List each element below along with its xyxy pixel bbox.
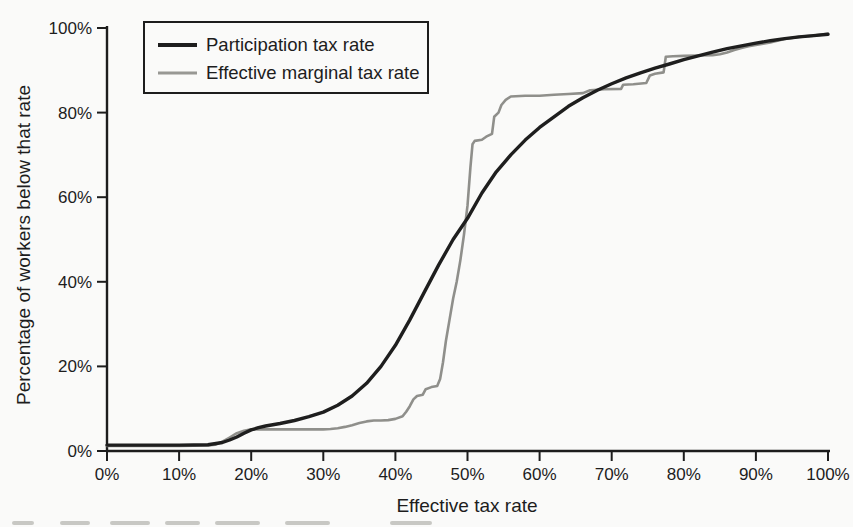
legend-participation-label: Participation tax rate bbox=[206, 34, 375, 55]
y-tick-label: 20% bbox=[58, 357, 92, 376]
x-tick-label: 0% bbox=[95, 465, 120, 484]
caption-remnant-mark bbox=[110, 521, 150, 525]
x-tick-label: 30% bbox=[306, 465, 340, 484]
participation-tax-rate-curve bbox=[107, 34, 828, 445]
legend: Participation tax rate Effective margina… bbox=[144, 22, 428, 93]
effective-marginal-tax-rate-curve bbox=[107, 34, 828, 446]
y-axis-title: Percentage of workers below that rate bbox=[13, 85, 34, 405]
caption-remnant-mark bbox=[12, 521, 34, 525]
caption-remnant-mark bbox=[60, 521, 90, 525]
y-tick-label: 60% bbox=[58, 188, 92, 207]
legend-marginal-label: Effective marginal tax rate bbox=[206, 62, 420, 83]
y-tick-label: 0% bbox=[67, 442, 92, 461]
x-tick-label: 80% bbox=[667, 465, 701, 484]
x-tick-label: 20% bbox=[234, 465, 268, 484]
x-tick-label: 40% bbox=[378, 465, 412, 484]
x-tick-label: 100% bbox=[806, 465, 849, 484]
caption-remnant-mark bbox=[390, 521, 432, 525]
x-axis-ticks: 0%10%20%30%40%50%60%70%80%90%100% bbox=[95, 451, 850, 484]
scanned-chart-figure: 0%20%40%60%80%100% 0%10%20%30%40%50%60%7… bbox=[0, 0, 853, 527]
x-tick-label: 10% bbox=[162, 465, 196, 484]
y-axis-ticks: 0%20%40%60%80%100% bbox=[49, 19, 107, 461]
x-tick-label: 50% bbox=[450, 465, 484, 484]
x-tick-label: 90% bbox=[739, 465, 773, 484]
x-tick-label: 60% bbox=[523, 465, 557, 484]
caption-remnant-mark bbox=[165, 521, 200, 525]
y-tick-label: 100% bbox=[49, 19, 92, 38]
x-tick-label: 70% bbox=[595, 465, 629, 484]
cropped-caption-remnant bbox=[12, 521, 432, 525]
x-axis-title: Effective tax rate bbox=[396, 495, 537, 516]
chart-canvas: 0%20%40%60%80%100% 0%10%20%30%40%50%60%7… bbox=[0, 0, 853, 527]
y-tick-label: 80% bbox=[58, 104, 92, 123]
caption-remnant-mark bbox=[285, 521, 330, 525]
data-series bbox=[107, 34, 828, 446]
caption-remnant-mark bbox=[215, 521, 260, 525]
y-tick-label: 40% bbox=[58, 273, 92, 292]
